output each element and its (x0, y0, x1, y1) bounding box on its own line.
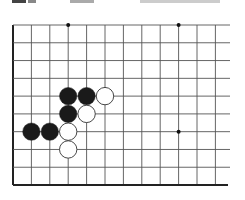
white-stone[interactable] (60, 123, 77, 140)
go-board[interactable] (0, 0, 245, 200)
black-stone[interactable] (60, 105, 77, 122)
board-grid (13, 25, 230, 185)
star-point (177, 23, 181, 27)
black-stone[interactable] (23, 123, 40, 140)
star-point (177, 130, 181, 134)
black-stone[interactable] (60, 87, 77, 104)
white-stone[interactable] (96, 87, 113, 104)
stones (23, 87, 114, 158)
white-stone[interactable] (78, 105, 95, 122)
black-stone[interactable] (41, 123, 58, 140)
black-stone[interactable] (78, 87, 95, 104)
white-stone[interactable] (60, 141, 77, 158)
star-point (66, 23, 70, 27)
